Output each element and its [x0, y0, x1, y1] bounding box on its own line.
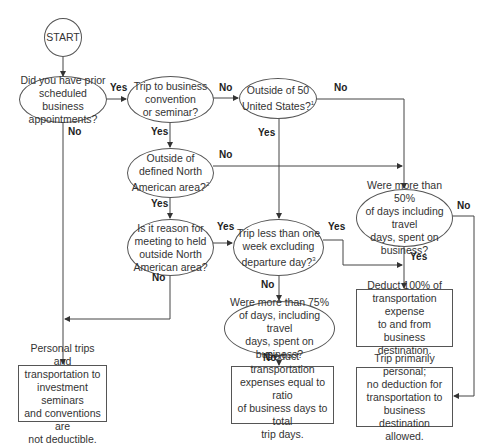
- decision-text: Is it reason for meeting to held outside…: [133, 222, 207, 274]
- result-not-deductible: Personal trips and transportation to inv…: [18, 365, 107, 422]
- footnote-marker: 3: [312, 256, 315, 262]
- decision-text: Did you have prior scheduled business ap…: [20, 74, 106, 126]
- result-text: Deduct 100% of transportation expense to…: [361, 279, 448, 357]
- edge-label-q2-yes: Yes: [151, 126, 168, 137]
- decision-reason-outside-na: Is it reason for meeting to held outside…: [127, 219, 214, 276]
- footnote-marker: 2: [206, 181, 209, 187]
- decision-text: Outside of 50 United States?: [242, 84, 311, 112]
- result-text: Deduct transportation expenses equal to …: [236, 350, 329, 441]
- result-deduct-ratio: Deduct transportation expenses equal to …: [231, 366, 334, 424]
- decision-more-than-75: Were more than 75% of days, including tr…: [224, 301, 335, 356]
- decision-text: Trip to business convention or seminar?: [134, 80, 208, 119]
- decision-text: Outside of defined North American area?: [132, 152, 206, 193]
- edge-label-q6-yes: Yes: [328, 221, 345, 232]
- result-primarily-personal: Trip primarily personal; no deduction fo…: [356, 367, 453, 427]
- edge-label-q4-no: No: [219, 149, 232, 160]
- decision-convention: Trip to business convention or seminar?: [127, 76, 214, 123]
- edge-label-q3-no: No: [334, 82, 347, 93]
- decision-text: Trip less than one week excluding depart…: [237, 227, 320, 268]
- edge-label-q3-yes: Yes: [258, 127, 275, 138]
- edge-label-q1-yes: Yes: [110, 82, 127, 93]
- edge-label-q1-no: No: [68, 126, 81, 137]
- edge-label-q6-no: No: [261, 279, 274, 290]
- decision-outside-us: Outside of 50 United States?1: [239, 78, 317, 119]
- start-label: START: [46, 31, 79, 44]
- edge-label-q2-no: No: [219, 82, 232, 93]
- edge-label-q5-no: No: [152, 272, 165, 283]
- footnote-marker: 1: [311, 100, 314, 106]
- result-text: Trip primarily personal; no deduction fo…: [361, 352, 448, 443]
- edge-label-q4-yes: Yes: [151, 198, 168, 209]
- start-node: START: [44, 18, 82, 57]
- edge-label-q7-no: No: [457, 200, 470, 211]
- edge-label-q7-yes: Yes: [410, 251, 427, 262]
- decision-outside-north-america: Outside of defined North American area?2: [127, 148, 214, 198]
- decision-prior-appointments: Did you have prior scheduled business ap…: [19, 76, 107, 123]
- edge-label-q5-yes: Yes: [217, 221, 234, 232]
- decision-more-than-50: Were more than 50% of days including tra…: [356, 189, 453, 247]
- result-deduct-100: Deduct 100% of transportation expense to…: [356, 289, 453, 347]
- decision-text: Were more than 50% of days including tra…: [357, 179, 452, 257]
- edge-label-q8-no: No: [263, 352, 276, 363]
- decision-less-than-week: Trip less than one week excluding depart…: [233, 219, 324, 276]
- result-text: Personal trips and transportation to inv…: [23, 342, 102, 446]
